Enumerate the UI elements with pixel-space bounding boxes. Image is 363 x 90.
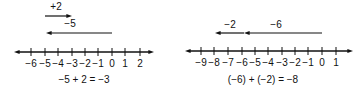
tick-label: −8	[208, 57, 220, 68]
equation-caption: (−6) + (−2) = −8	[228, 74, 299, 85]
displacement-arrow: −2	[215, 19, 244, 35]
arrowhead-left-icon	[185, 49, 191, 53]
arrow-label: −5	[64, 18, 76, 29]
tick-label: −5	[39, 58, 51, 69]
tick-label: −3	[276, 57, 288, 68]
displacement-arrow: −6	[244, 19, 322, 35]
tick-label: −2	[79, 58, 91, 69]
arrow-label: −2	[224, 19, 236, 30]
displacement-arrow: −5	[46, 18, 112, 35]
tick-label: −7	[222, 57, 234, 68]
tick-label: −6	[25, 58, 37, 69]
tick-label: 0	[109, 58, 115, 69]
number-line-diagrams: −6−5−4−3−2−1012+2−5−5 + 2 = −3−9−8−7−6−5…	[0, 0, 363, 90]
tick-label: −9	[195, 57, 207, 68]
arrowhead-left-icon	[244, 31, 250, 35]
tick-label: 1	[333, 57, 339, 68]
number-line-diagram-right: −9−8−7−6−5−4−3−2−101−6−2(−6) + (−2) = −8	[185, 19, 353, 85]
arrowhead-left-icon	[46, 31, 52, 35]
number-line: −6−5−4−3−2−1012	[14, 48, 154, 69]
arrowhead-left-icon	[215, 31, 221, 35]
tick-label: 2	[137, 58, 143, 69]
tick-label: 0	[319, 57, 325, 68]
number-line-diagram-left: −6−5−4−3−2−1012+2−5−5 + 2 = −3	[14, 1, 154, 85]
arrowhead-left-icon	[14, 50, 20, 54]
equation-caption: −5 + 2 = −3	[58, 74, 110, 85]
arrow-label: +2	[50, 1, 62, 12]
tick-label: −3	[66, 58, 78, 69]
displacement-arrow: +2	[45, 1, 72, 18]
tick-label: −4	[52, 58, 64, 69]
tick-label: −6	[236, 57, 248, 68]
arrowhead-right-icon	[347, 49, 353, 53]
tick-label: 1	[122, 58, 128, 69]
tick-label: −4	[262, 57, 274, 68]
arrowhead-right-icon	[148, 50, 154, 54]
number-line: −9−8−7−6−5−4−3−2−101	[185, 47, 353, 68]
tick-label: −1	[92, 58, 104, 69]
arrow-label: −6	[270, 19, 282, 30]
tick-label: −1	[302, 57, 314, 68]
tick-label: −5	[249, 57, 261, 68]
tick-label: −2	[289, 57, 301, 68]
